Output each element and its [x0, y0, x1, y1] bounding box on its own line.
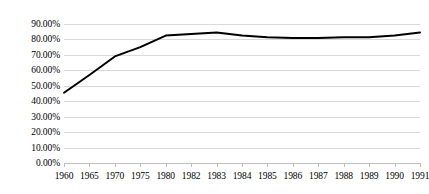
- y-axis-tick-label: 80.00%: [0, 34, 60, 44]
- x-axis-tick-label: 1982: [182, 170, 201, 182]
- x-axis-tick: [191, 163, 192, 167]
- x-axis-tick: [242, 163, 243, 167]
- x-axis-tick: [89, 163, 90, 167]
- x-axis-tick: [267, 163, 268, 167]
- x-axis-ticks: [64, 163, 420, 168]
- y-axis-tick-label: 90.00%: [0, 19, 60, 29]
- x-axis-tick-label: 1990: [385, 170, 404, 182]
- y-axis-tick-label: 60.00%: [0, 65, 60, 75]
- x-axis-tick-label: 1986: [284, 170, 303, 182]
- x-axis-tick-label: 1965: [80, 170, 99, 182]
- y-axis-tick-label: 0.00%: [0, 158, 60, 168]
- x-axis-tick: [217, 163, 218, 167]
- y-axis-tick-label: 70.00%: [0, 50, 60, 60]
- x-axis-tick: [369, 163, 370, 167]
- x-axis-tick-label: 1988: [334, 170, 353, 182]
- x-axis-tick-label: 1985: [258, 170, 277, 182]
- x-axis-tick-label: 1989: [360, 170, 379, 182]
- x-axis-tick: [140, 163, 141, 167]
- x-axis-tick: [395, 163, 396, 167]
- x-axis-tick-label: 1987: [309, 170, 328, 182]
- y-axis-tick-label: 40.00%: [0, 96, 60, 106]
- y-axis-tick-label: 30.00%: [0, 112, 60, 122]
- data-series-line: [64, 24, 420, 163]
- x-axis-tick: [293, 163, 294, 167]
- x-axis-tick: [420, 163, 421, 167]
- x-axis-tick-label: 1975: [131, 170, 150, 182]
- x-axis-tick: [318, 163, 319, 167]
- x-axis-tick-label: 1960: [55, 170, 74, 182]
- plot-area: [64, 24, 420, 163]
- x-axis-tick-label: 1970: [106, 170, 125, 182]
- x-axis-tick-label: 1991: [411, 170, 429, 182]
- x-axis-tick-label: 1983: [207, 170, 226, 182]
- x-axis-tick: [64, 163, 65, 167]
- x-axis-tick-label: 1984: [233, 170, 252, 182]
- x-axis-tick: [115, 163, 116, 167]
- y-axis-tick-label: 10.00%: [0, 143, 60, 153]
- x-axis-tick: [344, 163, 345, 167]
- x-axis-tick: [166, 163, 167, 167]
- y-axis-tick-label: 20.00%: [0, 127, 60, 137]
- x-axis-labels: 1960196519701975198019821983198419851986…: [64, 170, 420, 186]
- series-polyline: [64, 32, 420, 92]
- y-axis-labels: 0.00%10.00%20.00%30.00%40.00%50.00%60.00…: [0, 0, 60, 194]
- x-axis-tick-label: 1980: [156, 170, 175, 182]
- y-axis-tick-label: 50.00%: [0, 81, 60, 91]
